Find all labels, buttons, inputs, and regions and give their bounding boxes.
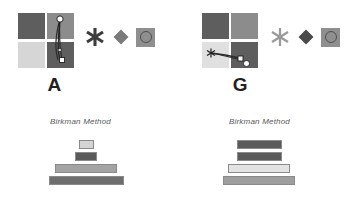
trajectory-path-a bbox=[18, 13, 74, 68]
quadrant-map-a bbox=[18, 13, 74, 68]
bar-1 bbox=[237, 140, 282, 149]
bar-4 bbox=[223, 176, 295, 185]
panel-letter-g: G bbox=[154, 74, 327, 96]
figure-canvas: A Birkman Method bbox=[0, 0, 346, 206]
shape-row-g bbox=[269, 26, 340, 48]
square-ring-icon bbox=[136, 28, 155, 47]
bar-2 bbox=[237, 152, 282, 161]
panel-a: A Birkman Method bbox=[0, 0, 173, 206]
panel-g: G Birkman Method bbox=[173, 0, 346, 206]
diamond-icon bbox=[112, 28, 130, 46]
quadrant-map-g bbox=[202, 13, 258, 68]
diamond-icon bbox=[297, 28, 315, 46]
trajectory-path-g bbox=[202, 13, 258, 68]
method-label-a: Birkman Method bbox=[0, 117, 167, 126]
bar-chart-g bbox=[173, 140, 346, 190]
shape-row-a bbox=[84, 26, 155, 48]
panel-letter-a: A bbox=[0, 74, 141, 96]
ring-shape bbox=[140, 31, 152, 43]
bar-chart-a bbox=[0, 140, 173, 190]
bar-3 bbox=[228, 164, 290, 173]
bar-3 bbox=[55, 164, 117, 173]
bar-2 bbox=[75, 152, 97, 161]
asterisk-icon bbox=[269, 26, 291, 48]
method-label-g: Birkman Method bbox=[173, 117, 346, 126]
asterisk-icon bbox=[84, 26, 106, 48]
bar-4 bbox=[49, 176, 124, 185]
square-ring-icon bbox=[321, 28, 340, 47]
ring-shape bbox=[325, 31, 337, 43]
bar-1 bbox=[79, 140, 94, 149]
